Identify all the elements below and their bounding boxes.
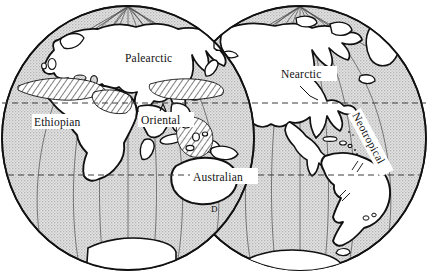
landmass-arctic-isle-2	[296, 16, 317, 27]
label-ethiopian-text: Ethiopian	[34, 116, 81, 129]
label-palearctic: Palearctic	[122, 50, 188, 65]
label-marker-d: D	[211, 204, 218, 214]
map-canvas: Palearctic Ethiopian Oriental Australian…	[0, 0, 428, 275]
landmass-tierra-del-fuego	[336, 249, 350, 256]
label-australian-text: Australian	[193, 171, 243, 183]
label-nearctic-text: Nearctic	[281, 68, 322, 80]
label-australian: Australian	[190, 168, 258, 184]
biogeographic-regions-map: Palearctic Ethiopian Oriental Australian…	[0, 0, 428, 275]
label-ethiopian: Ethiopian	[32, 114, 94, 129]
label-oriental-text: Oriental	[141, 114, 180, 126]
central-asia-hatch-area	[149, 79, 223, 100]
label-palearctic-text: Palearctic	[125, 52, 172, 64]
landmass-newfoundland	[359, 75, 375, 84]
